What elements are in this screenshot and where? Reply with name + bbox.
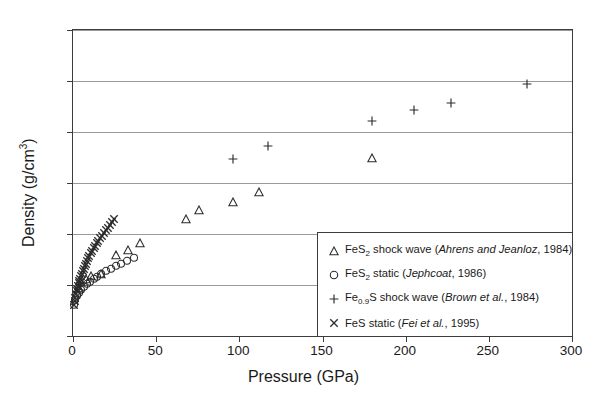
data-point-triangle bbox=[111, 247, 121, 263]
data-point-x bbox=[92, 238, 102, 248]
x-axis-tick-label: 250 bbox=[477, 343, 500, 358]
data-point-x bbox=[82, 256, 92, 266]
data-point-x bbox=[75, 274, 85, 284]
y-gridline bbox=[73, 183, 572, 184]
data-point-plus bbox=[228, 154, 238, 164]
data-point-x bbox=[83, 253, 93, 263]
data-point-triangle bbox=[123, 242, 133, 258]
triangle-marker-icon bbox=[325, 246, 343, 256]
data-point-x bbox=[109, 214, 119, 224]
y-axis-tick bbox=[67, 234, 73, 235]
data-point-circle bbox=[92, 269, 102, 285]
data-point-triangle bbox=[181, 211, 191, 227]
data-point-circle bbox=[77, 281, 87, 297]
plus-marker-icon bbox=[325, 294, 343, 304]
data-point-x bbox=[97, 231, 107, 241]
x-axis-title: Pressure (GPa) bbox=[0, 368, 607, 386]
data-point-x bbox=[70, 293, 80, 303]
data-point-x bbox=[76, 271, 86, 281]
data-point-x bbox=[89, 243, 99, 253]
x-axis-tick bbox=[73, 336, 74, 342]
data-point-x bbox=[72, 286, 82, 296]
y-gridline bbox=[73, 81, 572, 82]
y-axis-tick bbox=[67, 30, 73, 31]
data-point-x bbox=[73, 281, 83, 291]
circle-marker-icon bbox=[325, 270, 343, 280]
legend-item: FeS2 shock wave (Ahrens and Jeanloz, 198… bbox=[325, 239, 572, 263]
data-point-plus bbox=[263, 141, 273, 151]
data-point-circle bbox=[69, 296, 79, 312]
data-point-x bbox=[80, 261, 90, 271]
data-point-triangle bbox=[74, 280, 84, 296]
data-point-circle bbox=[86, 273, 96, 289]
y-axis-tick bbox=[67, 183, 73, 184]
data-point-triangle bbox=[367, 150, 377, 166]
y-axis-tick bbox=[67, 81, 73, 82]
data-point-circle bbox=[129, 250, 139, 266]
legend-item: Fe0.9S shock wave (Brown et al., 1984) bbox=[325, 287, 572, 311]
legend-item-label: FeS2 shock wave (Ahrens and Jeanloz, 198… bbox=[343, 243, 572, 258]
data-point-x bbox=[93, 236, 103, 246]
data-point-x bbox=[84, 251, 94, 261]
data-point-circle bbox=[79, 279, 89, 295]
data-point-circle bbox=[72, 287, 82, 303]
x-axis-tick-label: 150 bbox=[310, 343, 333, 358]
data-point-x bbox=[81, 259, 91, 269]
data-point-triangle bbox=[96, 266, 106, 282]
legend-item: FeS static (Fei et al., 1995) bbox=[325, 311, 572, 335]
data-point-triangle bbox=[86, 268, 96, 284]
data-point-triangle bbox=[135, 235, 145, 251]
data-point-triangle bbox=[194, 202, 204, 218]
x-axis-tick-label: 100 bbox=[227, 343, 250, 358]
data-point-triangle bbox=[254, 184, 264, 200]
x-axis-tick-label: 50 bbox=[148, 343, 163, 358]
y-axis-title: Density (g/cm3) bbox=[18, 43, 37, 343]
data-point-circle bbox=[102, 263, 112, 279]
y-axis-tick bbox=[67, 132, 73, 133]
data-point-x bbox=[103, 223, 113, 233]
data-point-x bbox=[87, 246, 97, 256]
x-axis-tick bbox=[156, 336, 157, 342]
data-point-x bbox=[70, 296, 80, 306]
y-axis-title-exponent: 3 bbox=[18, 144, 29, 150]
data-point-x bbox=[77, 269, 87, 279]
legend-item-label: Fe0.9S shock wave (Brown et al., 1984) bbox=[343, 291, 539, 306]
y-axis-title-close: ) bbox=[20, 138, 37, 143]
data-point-circle bbox=[107, 260, 117, 276]
data-point-circle bbox=[71, 291, 81, 307]
x-axis-tick-label: 200 bbox=[393, 343, 416, 358]
data-point-plus bbox=[409, 105, 419, 115]
x-axis-tick-label: 300 bbox=[560, 343, 583, 358]
x-axis-tick-label: 0 bbox=[68, 343, 76, 358]
data-point-circle bbox=[74, 284, 84, 300]
x-marker-icon bbox=[325, 318, 343, 328]
data-point-triangle bbox=[228, 194, 238, 210]
data-point-circle bbox=[111, 258, 121, 274]
y-gridline bbox=[73, 132, 572, 133]
data-point-x bbox=[78, 266, 88, 276]
data-point-x bbox=[90, 241, 100, 251]
data-point-x bbox=[69, 300, 79, 310]
data-point-x bbox=[71, 289, 81, 299]
data-point-triangle bbox=[76, 274, 86, 290]
data-point-x bbox=[105, 220, 115, 230]
y-gridline bbox=[73, 30, 572, 31]
legend-item-label: FeS2 static (Jephcoat, 1986) bbox=[343, 267, 486, 282]
legend: FeS2 shock wave (Ahrens and Jeanloz, 198… bbox=[317, 232, 573, 337]
legend-item: FeS2 static (Jephcoat, 1986) bbox=[325, 263, 572, 287]
data-point-circle bbox=[122, 253, 132, 269]
legend-item-label: FeS static (Fei et al., 1995) bbox=[343, 317, 479, 329]
data-point-x bbox=[79, 264, 89, 274]
y-axis-tick bbox=[67, 285, 73, 286]
data-point-plus bbox=[367, 116, 377, 126]
data-point-x bbox=[107, 217, 117, 227]
data-point-x bbox=[86, 248, 96, 258]
data-point-plus bbox=[446, 98, 456, 108]
data-point-circle bbox=[116, 255, 126, 271]
figure: 45678910 Density (g/cm3) Pressure (GPa) … bbox=[0, 0, 607, 403]
x-axis-tick bbox=[239, 336, 240, 342]
data-point-x bbox=[74, 278, 84, 288]
data-point-circle bbox=[82, 276, 92, 292]
data-point-circle bbox=[97, 266, 107, 282]
y-axis-title-base: Density (g/cm bbox=[20, 149, 37, 247]
